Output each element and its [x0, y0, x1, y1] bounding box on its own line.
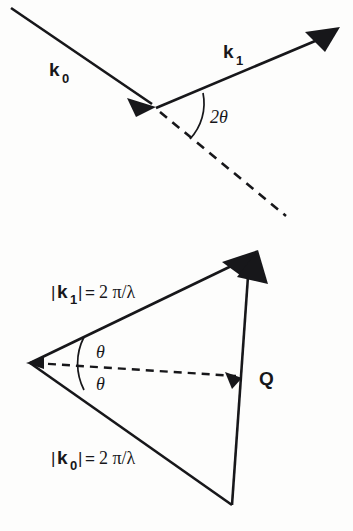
k0-magnitude-label: | k 0 | = 2 π/λ [51, 447, 136, 473]
two-theta-label: 2θ [210, 107, 228, 127]
k1-label: k 1 [223, 41, 243, 68]
k0-label: k 0 [49, 59, 69, 86]
k1-magnitude-bar-close: | [78, 283, 82, 302]
k1-label-subscript: 1 [236, 53, 243, 68]
panel-top-scattering-geometry: k 0 k 1 2θ [11, 8, 340, 216]
k0-magnitude-bar-close: | [78, 449, 82, 468]
k0-arrowhead-icon [127, 98, 156, 117]
theta-angle-arc [78, 337, 84, 390]
k0-magnitude-symbol: k [57, 447, 68, 468]
k1-scattered-ray-line [156, 36, 327, 108]
k1-magnitude-value: 2 π/λ [99, 282, 136, 302]
k1-magnitude-bar-open: | [51, 283, 55, 302]
k1-triangle-side-line [30, 258, 248, 363]
figure-root: k 0 k 1 2θ [0, 0, 353, 531]
k0-magnitude-value: 2 π/λ [99, 448, 136, 468]
k1-arrowhead-icon [305, 27, 340, 52]
theta-lower-label: θ [96, 374, 105, 394]
k0-triangle-side-line [30, 363, 232, 505]
k0-magnitude-subscript: 0 [70, 458, 77, 473]
k1-magnitude-equals: = [85, 283, 95, 302]
k1-magnitude-subscript: 1 [70, 292, 77, 307]
k0-magnitude-bar-open: | [51, 449, 55, 468]
bisector-dashed-line [34, 363, 236, 376]
k0-magnitude-equals: = [85, 449, 95, 468]
theta-upper-label: θ [96, 342, 105, 362]
k1-magnitude-symbol: k [57, 281, 68, 302]
two-theta-arc [190, 93, 204, 139]
k0-label-subscript: 0 [62, 71, 69, 86]
q-vector-label: Q [259, 368, 274, 389]
k0-incident-ray-line [11, 8, 152, 104]
scattering-diagram: k 0 k 1 2θ [0, 0, 353, 531]
k0-label-symbol: k [49, 59, 60, 80]
k1-magnitude-label: | k 1 | = 2 π/λ [51, 281, 136, 307]
panel-bottom-vector-triangle: | k 1 | = 2 π/λ | k 0 | = 2 π/λ θ θ Q [26, 250, 274, 505]
forward-beam-dashed-line [160, 112, 286, 216]
k1-label-symbol: k [223, 41, 234, 62]
